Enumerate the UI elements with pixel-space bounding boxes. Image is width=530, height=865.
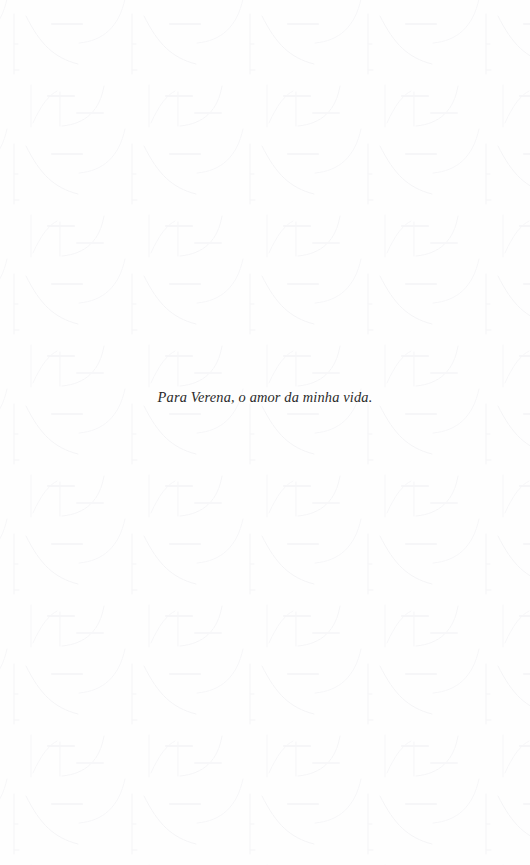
dedication-block: Para Verena, o amor da minha vida.	[0, 388, 530, 407]
dedication-page: Para Verena, o amor da minha vida.	[0, 0, 530, 865]
dedication-text: Para Verena, o amor da minha vida.	[158, 388, 373, 407]
watermark-pattern	[0, 0, 530, 865]
